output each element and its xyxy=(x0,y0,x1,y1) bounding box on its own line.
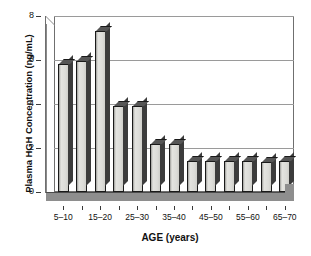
y-axis-tick-label: 6 xyxy=(20,54,34,64)
bar xyxy=(205,161,216,192)
x-axis-tick xyxy=(100,206,101,210)
bar-side-face xyxy=(123,97,128,186)
bar-top-face xyxy=(206,156,222,161)
y-axis-tick-label: 0 xyxy=(20,186,34,196)
y-axis-tick-label: 8 xyxy=(20,10,34,20)
x-axis-tick-label: 65–70 xyxy=(273,212,297,222)
y-axis-tick xyxy=(36,192,41,193)
x-axis-tick xyxy=(211,206,212,210)
y-axis-title: Plasma HGH Concentration (ng/mL) xyxy=(23,24,34,204)
plot-area xyxy=(46,16,294,206)
y-axis-tick-label: 4 xyxy=(20,98,34,108)
x-axis-tick-labels: 5–1015–2025–3035–4045–5055–6065–70 xyxy=(46,212,294,226)
y-axis-tick xyxy=(36,16,41,17)
x-axis-tick-label: 15–20 xyxy=(88,212,112,222)
bar xyxy=(169,144,180,192)
y-axis-tick xyxy=(36,60,41,61)
x-axis-tick xyxy=(248,206,249,210)
y-axis-tick xyxy=(36,104,41,105)
bar xyxy=(58,64,69,192)
x-axis-tick xyxy=(63,206,64,210)
x-axis-tick xyxy=(285,206,286,210)
bar-series xyxy=(46,16,294,201)
x-axis-tick-label: 5–10 xyxy=(54,212,73,222)
x-axis-title: AGE (years) xyxy=(46,232,294,243)
x-axis-tick-label: 55–60 xyxy=(236,212,260,222)
x-axis-tick-label: 25–30 xyxy=(125,212,149,222)
bar xyxy=(113,106,124,192)
x-axis-tick xyxy=(174,206,175,210)
bar xyxy=(261,162,272,192)
x-axis-tick xyxy=(137,206,138,210)
x-axis-ticks xyxy=(46,206,294,211)
bar xyxy=(132,106,143,192)
bar xyxy=(242,161,253,192)
bar-side-face xyxy=(68,55,73,186)
y-axis-tick-label: 2 xyxy=(20,142,34,152)
x-axis-tick xyxy=(119,206,120,210)
x-axis-tick xyxy=(192,206,193,210)
x-axis-tick-label: 35–40 xyxy=(162,212,186,222)
bar xyxy=(95,31,106,192)
bar-side-face xyxy=(105,22,110,186)
y-axis-tick xyxy=(36,148,41,149)
bar xyxy=(224,161,235,192)
bar xyxy=(187,161,198,192)
x-axis-tick xyxy=(156,206,157,210)
x-axis-tick xyxy=(229,206,230,210)
bar-side-face xyxy=(142,97,147,186)
x-axis-tick xyxy=(82,206,83,210)
x-axis-tick-label: 45–50 xyxy=(199,212,223,222)
x-axis-tick xyxy=(266,206,267,210)
bar xyxy=(150,144,161,192)
bar-chart-figure: Plasma HGH Concentration (ng/mL) 02468 5… xyxy=(0,0,311,256)
bar xyxy=(76,61,87,192)
bar-side-face xyxy=(86,52,91,186)
plot-floor xyxy=(46,192,294,201)
